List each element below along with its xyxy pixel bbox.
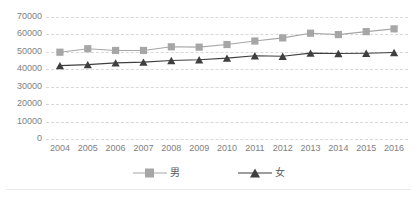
x-tick-label: 2012 bbox=[273, 143, 293, 153]
legend-label-female: 女 bbox=[275, 167, 285, 179]
data-point-square bbox=[335, 31, 342, 38]
x-tick-label: 2014 bbox=[328, 143, 348, 153]
x-tick-label: 2005 bbox=[78, 143, 98, 153]
data-point-square bbox=[168, 43, 175, 50]
x-tick-label: 2007 bbox=[133, 143, 153, 153]
y-tick-label: 40000 bbox=[17, 64, 42, 73]
chart-legend: 男 女 bbox=[0, 162, 417, 184]
legend-item-male[interactable]: 男 bbox=[133, 167, 180, 179]
plot-area bbox=[46, 17, 408, 139]
x-tick-label: 2009 bbox=[189, 143, 209, 153]
data-point-square bbox=[112, 47, 119, 54]
x-tick-label: 2004 bbox=[50, 143, 70, 153]
data-point-square bbox=[307, 30, 314, 37]
y-tick-label: 0 bbox=[37, 134, 42, 143]
data-point-square bbox=[363, 28, 370, 35]
bottom-divider bbox=[6, 189, 411, 190]
legend-marker-square-icon bbox=[133, 167, 167, 179]
x-tick-label: 2013 bbox=[301, 143, 321, 153]
x-tick-label: 2010 bbox=[217, 143, 237, 153]
y-tick-label: 20000 bbox=[17, 99, 42, 108]
x-tick-label: 2006 bbox=[106, 143, 126, 153]
gridline bbox=[46, 139, 408, 140]
data-point-square bbox=[140, 47, 147, 54]
data-point-square bbox=[56, 49, 63, 56]
x-axis: 2004200520062007200820092010201120122013… bbox=[46, 143, 408, 157]
data-point-square bbox=[84, 45, 91, 52]
x-tick-label: 2008 bbox=[161, 143, 181, 153]
y-tick-label: 30000 bbox=[17, 82, 42, 91]
series-layer bbox=[46, 17, 408, 139]
data-point-square bbox=[251, 37, 258, 44]
legend-marker-triangle-icon bbox=[238, 167, 272, 179]
data-point-square bbox=[279, 34, 286, 41]
y-tick-label: 50000 bbox=[17, 47, 42, 56]
series-line bbox=[60, 29, 394, 52]
legend-label-male: 男 bbox=[170, 167, 180, 179]
data-point-square bbox=[196, 44, 203, 51]
line-chart: 010000200003000040000500006000070000 200… bbox=[0, 0, 417, 197]
y-tick-label: 70000 bbox=[17, 12, 42, 21]
x-tick-label: 2011 bbox=[245, 143, 264, 153]
data-point-square bbox=[223, 41, 230, 48]
x-tick-label: 2015 bbox=[356, 143, 376, 153]
legend-item-female[interactable]: 女 bbox=[238, 167, 285, 179]
x-tick-label: 2016 bbox=[384, 143, 404, 153]
y-tick-label: 60000 bbox=[17, 29, 42, 38]
data-point-square bbox=[390, 25, 397, 32]
y-tick-label: 10000 bbox=[17, 117, 42, 126]
